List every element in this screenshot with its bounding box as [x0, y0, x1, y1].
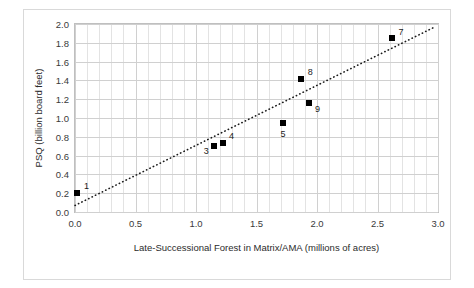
- data-point-label: 4: [229, 131, 234, 141]
- x-tick-label: 3.0: [431, 218, 444, 229]
- y-tick-label: 0.8: [56, 131, 69, 142]
- data-point-label: 8: [308, 67, 313, 77]
- data-point-label: 9: [315, 104, 320, 114]
- gridline-vertical: [438, 24, 439, 212]
- gridline-horizontal: [75, 24, 438, 25]
- y-tick-label: 1.0: [56, 113, 69, 124]
- y-tick-label: 1.6: [56, 56, 69, 67]
- plot-area: 1345897 0.00.20.40.60.81.01.21.41.61.82.…: [74, 23, 439, 213]
- data-point-marker[interactable]: [74, 190, 80, 196]
- y-tick-label: 0.4: [56, 169, 69, 180]
- gridline-horizontal: [75, 43, 438, 44]
- data-point-marker[interactable]: [220, 140, 226, 146]
- data-point-label: 7: [399, 27, 404, 37]
- data-point-label: 5: [281, 129, 286, 139]
- y-tick-label: 0.2: [56, 188, 69, 199]
- x-tick-label: 0.0: [68, 218, 81, 229]
- gridline-horizontal: [75, 80, 438, 81]
- gridline-horizontal: [75, 212, 438, 213]
- y-axis-title: PSQ (billion board feet): [33, 23, 47, 213]
- data-point-label: 1: [84, 181, 89, 191]
- y-tick-label: 2.0: [56, 19, 69, 30]
- data-point-marker[interactable]: [298, 76, 304, 82]
- y-tick-label: 1.2: [56, 94, 69, 105]
- y-tick-label: 0.6: [56, 150, 69, 161]
- x-axis-title: Late-Successional Forest in Matrix/AMA (…: [74, 242, 439, 253]
- x-tick-label: 1.5: [250, 218, 263, 229]
- gridline-horizontal: [75, 62, 438, 63]
- x-tick-label: 0.5: [129, 218, 142, 229]
- chart-frame: 1345897 0.00.20.40.60.81.01.21.41.61.82.…: [23, 9, 451, 280]
- gridline-horizontal: [75, 99, 438, 100]
- gridline-horizontal: [75, 156, 438, 157]
- x-tick-label: 2.0: [310, 218, 323, 229]
- data-point-marker[interactable]: [280, 120, 286, 126]
- data-point-label: 3: [204, 146, 209, 156]
- data-point-marker[interactable]: [211, 143, 217, 149]
- data-point-marker[interactable]: [389, 35, 395, 41]
- gridline-horizontal: [75, 193, 438, 194]
- y-tick-label: 1.4: [56, 75, 69, 86]
- gridline-horizontal: [75, 137, 438, 138]
- y-tick-label: 1.8: [56, 37, 69, 48]
- data-point-marker[interactable]: [306, 100, 312, 106]
- x-tick-label: 2.5: [371, 218, 384, 229]
- gridline-horizontal: [75, 118, 438, 119]
- gridline-horizontal: [75, 174, 438, 175]
- y-tick-label: 0.0: [56, 207, 69, 218]
- x-tick-label: 1.0: [189, 218, 202, 229]
